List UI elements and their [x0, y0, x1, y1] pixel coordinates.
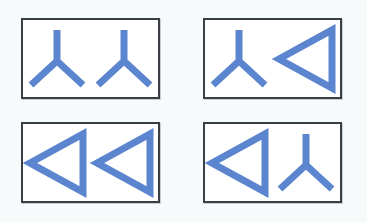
top-right-panel[interactable]: [203, 18, 342, 99]
bottom-right-panel[interactable]: [203, 122, 342, 203]
left-triangle-glyph: [91, 124, 159, 201]
panel-glyph-row: [205, 20, 340, 97]
left-triangle-glyph: [205, 124, 273, 201]
y-shape-glyph: [23, 20, 91, 97]
panel-glyph-row: [23, 20, 158, 97]
shape-panels-stage: [0, 0, 367, 222]
top-left-panel[interactable]: [21, 18, 160, 99]
left-triangle-glyph: [23, 124, 91, 201]
y-shape-glyph: [91, 20, 159, 97]
bottom-left-panel[interactable]: [21, 122, 160, 203]
y-shape-glyph: [273, 124, 341, 201]
left-triangle-glyph: [273, 20, 341, 97]
panel-glyph-row: [205, 124, 340, 201]
panel-glyph-row: [23, 124, 158, 201]
y-shape-glyph: [205, 20, 273, 97]
